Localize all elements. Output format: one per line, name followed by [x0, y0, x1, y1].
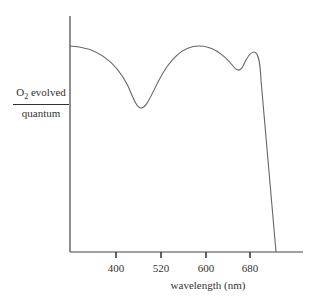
action-spectrum-curve	[70, 46, 276, 252]
chart-plot	[0, 0, 318, 301]
x-tick-label: 400	[108, 262, 125, 274]
x-tick-label: 600	[198, 262, 215, 274]
x-axis-label: wavelength (nm)	[171, 279, 246, 291]
y-axis-label-denominator: quantum	[10, 105, 72, 120]
x-tick-label: 680	[242, 262, 259, 274]
y-axis-label-numerator: O2 evolved	[13, 86, 69, 105]
x-tick-label: 520	[153, 262, 170, 274]
y-axis-label: O2 evolved quantum	[10, 86, 72, 120]
